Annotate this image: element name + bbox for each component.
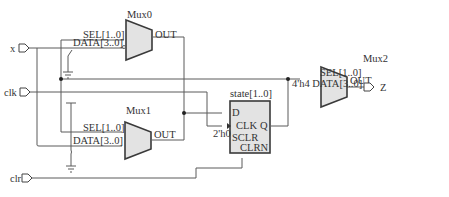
junction-dot [59,77,63,81]
input-port-clr[interactable]: clr [10,173,32,184]
register-title: state[1..0] [230,88,272,99]
junction-dot [182,111,186,115]
state-register[interactable]: state[1..0] D CLK Q 2'h0 SCLR CLRN [213,88,272,153]
wire-q-out [271,79,288,126]
mux1-sel-label: SEL[1..0] [83,122,124,133]
mux1-out-label: OUT [154,129,176,140]
pin-clrn-label: CLRN [240,142,268,153]
mux1-body [125,122,151,159]
output-port-icon [364,83,374,91]
port-clk-label: clk [4,87,18,98]
wire-mux0-out-d [153,37,222,113]
output-port-z[interactable]: Z [364,82,386,93]
pin-clk-label: CLK [236,120,257,131]
pin-d-label: D [232,107,240,118]
sclr-value-label: 2'h0 [213,128,231,139]
port-z-label: Z [380,82,386,93]
input-port-clk[interactable]: clk [4,87,30,98]
mux0-body [126,20,152,60]
pin-q-label: Q [260,120,268,131]
schematic-canvas: x clk clr Mux0 SEL[1..0] D [0,0,449,197]
mux0-data-label: DATA[3..0] [73,37,123,48]
port-clr-label: clr [10,173,22,184]
mux1-data-label: DATA[3..0] [73,135,123,146]
port-x-label: x [10,43,16,54]
mux1[interactable]: Mux1 SEL[1..0] DATA[3..0] OUT [73,105,176,159]
input-port-x[interactable]: x [10,43,29,54]
mux2-title: Mux2 [363,53,388,64]
junction-dot [286,77,290,81]
mux0-title: Mux0 [127,9,152,20]
mux0[interactable]: Mux0 SEL[1..0] DATA[3..0] OUT [73,9,177,60]
ground-icon [63,50,73,78]
wire-state-sel-mux1 [61,40,122,132]
input-port-icon [20,88,30,96]
input-port-icon [22,174,32,182]
mux0-out-label: OUT [155,29,177,40]
wire-clr-clrn [32,158,242,178]
input-port-icon [19,44,29,52]
mux2[interactable]: Mux2 SEL[1..0] 4'h4 DATA[3..0] OUT [292,53,388,107]
mux1-title: Mux1 [126,105,151,116]
inverter-bubble [123,46,126,49]
